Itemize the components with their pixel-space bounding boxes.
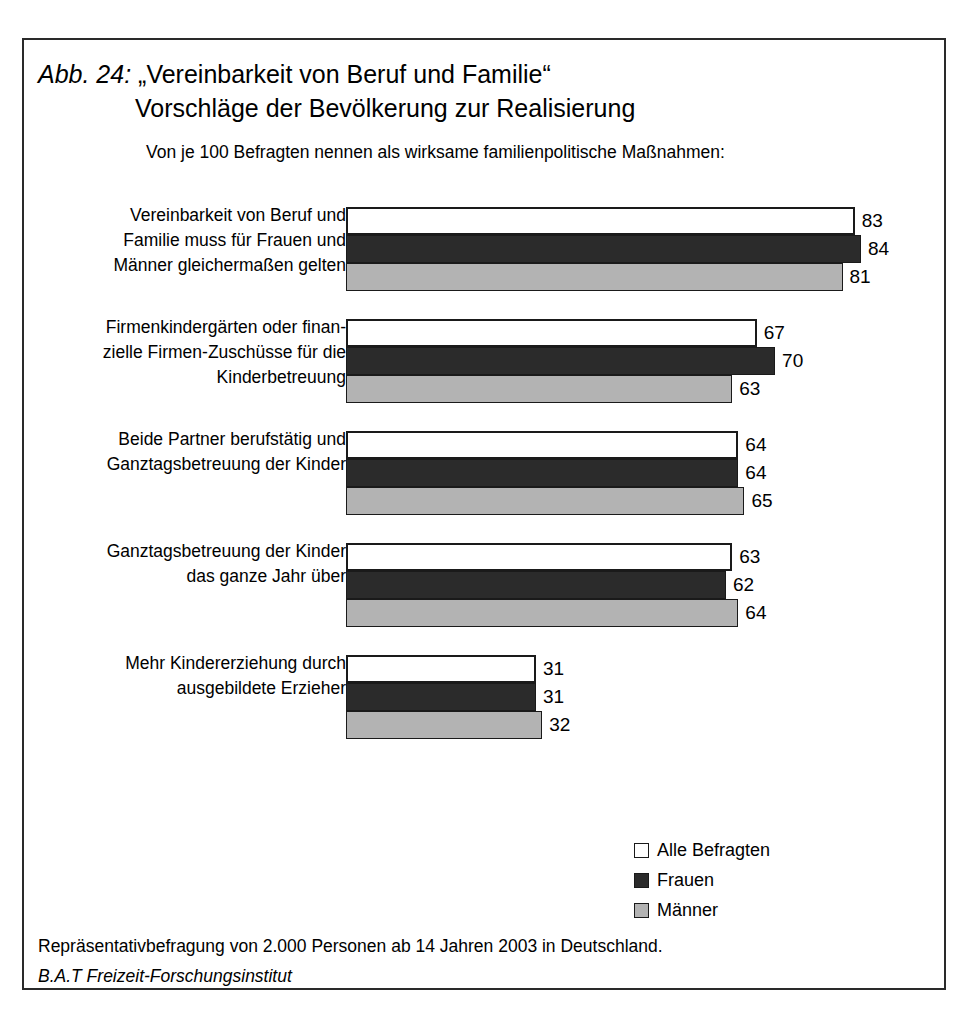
bar-group: Firmenkindergärten oder finan- zielle Fi… bbox=[24, 315, 944, 405]
bar-value-label: 67 bbox=[764, 320, 785, 346]
bar-group-label: Beide Partner berufstätig und Ganztagsbe… bbox=[24, 427, 346, 477]
bar-row: 70 bbox=[346, 347, 936, 375]
legend-item[interactable]: Frauen bbox=[634, 865, 894, 895]
bar-frauen[interactable] bbox=[346, 235, 861, 263]
bar-männer[interactable] bbox=[346, 263, 843, 291]
bar-value-label: 83 bbox=[862, 208, 883, 234]
bar-frauen[interactable] bbox=[346, 683, 536, 711]
bar-alle-befragten[interactable] bbox=[346, 431, 738, 459]
legend-item[interactable]: Männer bbox=[634, 895, 894, 925]
bar-group-label: Ganztagsbetreuung der Kinder das ganze J… bbox=[24, 539, 346, 589]
bar-group-bars: 636264 bbox=[346, 543, 936, 627]
bar-value-label: 63 bbox=[739, 376, 760, 402]
legend-label: Frauen bbox=[657, 870, 714, 891]
figure-subtitle: Von je 100 Befragten nennen als wirksame… bbox=[146, 141, 928, 163]
bar-alle-befragten[interactable] bbox=[346, 655, 536, 683]
legend-item[interactable]: Alle Befragten bbox=[634, 835, 894, 865]
bar-group-bars: 677063 bbox=[346, 319, 936, 403]
bar-value-label: 31 bbox=[543, 684, 564, 710]
bar-row: 64 bbox=[346, 599, 936, 627]
bar-alle-befragten[interactable] bbox=[346, 207, 855, 235]
bar-frauen[interactable] bbox=[346, 459, 738, 487]
bar-frauen[interactable] bbox=[346, 347, 775, 375]
legend-swatch-icon bbox=[634, 873, 649, 888]
bar-value-label: 62 bbox=[733, 572, 754, 598]
bar-group-bars: 646465 bbox=[346, 431, 936, 515]
bar-group-label: Mehr Kindererziehung durch ausgebildete … bbox=[24, 651, 346, 701]
bar-group: Ganztagsbetreuung der Kinder das ganze J… bbox=[24, 539, 944, 629]
bar-row: 84 bbox=[346, 235, 936, 263]
chart-legend: Alle BefragtenFrauenMänner bbox=[634, 835, 894, 925]
figure-title-line-2: Vorschläge der Bevölkerung zur Realisier… bbox=[135, 92, 928, 124]
bar-value-label: 70 bbox=[782, 348, 803, 374]
bar-männer[interactable] bbox=[346, 599, 738, 627]
bar-group-bars: 313132 bbox=[346, 655, 936, 739]
bar-frauen[interactable] bbox=[346, 571, 726, 599]
bar-value-label: 31 bbox=[543, 656, 564, 682]
bar-männer[interactable] bbox=[346, 375, 732, 403]
bar-row: 81 bbox=[346, 263, 936, 291]
bar-group: Beide Partner berufstätig und Ganztagsbe… bbox=[24, 427, 944, 517]
legend-swatch-icon bbox=[634, 843, 649, 858]
bar-group-label: Firmenkindergärten oder finan- zielle Fi… bbox=[24, 315, 346, 390]
bar-group-bars: 838481 bbox=[346, 207, 936, 291]
bar-männer[interactable] bbox=[346, 711, 542, 739]
bar-row: 63 bbox=[346, 543, 936, 571]
bar-row: 31 bbox=[346, 683, 936, 711]
title-block: Abb. 24: „Vereinbarkeit von Beruf und Fa… bbox=[38, 58, 928, 163]
bar-row: 63 bbox=[346, 375, 936, 403]
figure-frame: Abb. 24: „Vereinbarkeit von Beruf und Fa… bbox=[22, 38, 946, 990]
bar-alle-befragten[interactable] bbox=[346, 319, 757, 347]
figure-title-main: „Vereinbarkeit von Beruf und Familie“ bbox=[138, 60, 551, 88]
bar-value-label: 81 bbox=[850, 264, 871, 290]
bar-row: 64 bbox=[346, 459, 936, 487]
footer-institute-line: B.A.T Freizeit-Forschungsinstitut bbox=[38, 963, 918, 989]
figure-title-line-1: Abb. 24: „Vereinbarkeit von Beruf und Fa… bbox=[38, 58, 928, 90]
bar-value-label: 63 bbox=[739, 544, 760, 570]
legend-label: Alle Befragten bbox=[657, 840, 770, 861]
bar-group: Vereinbarkeit von Beruf und Familie muss… bbox=[24, 203, 944, 293]
bar-group-label: Vereinbarkeit von Beruf und Familie muss… bbox=[24, 203, 346, 278]
bar-alle-befragten[interactable] bbox=[346, 543, 732, 571]
bar-value-label: 64 bbox=[745, 600, 766, 626]
bar-group: Mehr Kindererziehung durch ausgebildete … bbox=[24, 651, 944, 741]
bar-row: 64 bbox=[346, 431, 936, 459]
bar-row: 31 bbox=[346, 655, 936, 683]
legend-label: Männer bbox=[657, 900, 718, 921]
figure-number: Abb. 24: bbox=[38, 60, 131, 88]
legend-swatch-icon bbox=[634, 903, 649, 918]
bar-row: 32 bbox=[346, 711, 936, 739]
bar-value-label: 84 bbox=[868, 236, 889, 262]
bar-row: 67 bbox=[346, 319, 936, 347]
bar-row: 65 bbox=[346, 487, 936, 515]
bar-value-label: 32 bbox=[549, 712, 570, 738]
bar-value-label: 64 bbox=[745, 432, 766, 458]
bar-value-label: 64 bbox=[745, 460, 766, 486]
bar-row: 62 bbox=[346, 571, 936, 599]
bar-männer[interactable] bbox=[346, 487, 744, 515]
figure-footer: Repräsentativbefragung von 2.000 Persone… bbox=[38, 933, 918, 989]
bar-chart-plot: Vereinbarkeit von Beruf und Familie muss… bbox=[24, 203, 944, 763]
bar-row: 83 bbox=[346, 207, 936, 235]
bar-value-label: 65 bbox=[751, 488, 772, 514]
footer-source-line: Repräsentativbefragung von 2.000 Persone… bbox=[38, 933, 918, 959]
